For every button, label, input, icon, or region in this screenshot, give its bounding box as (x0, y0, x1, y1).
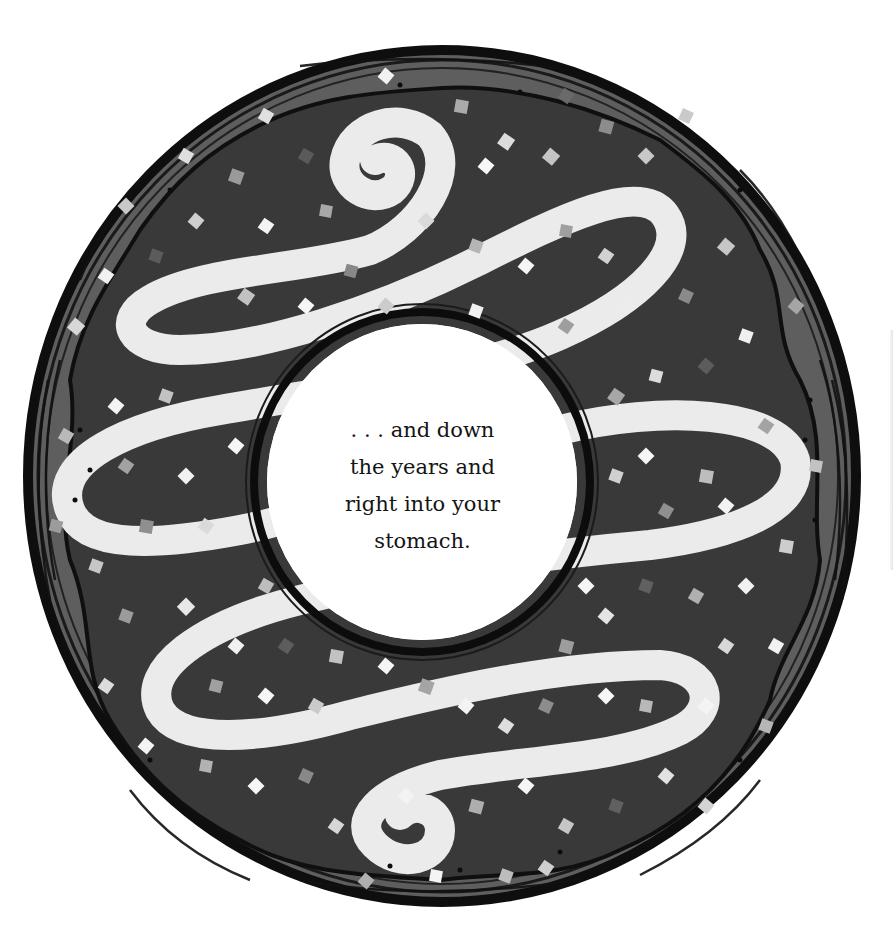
story-caption: . . . and down the years and right into … (280, 412, 565, 560)
caption-line-4: stomach. (280, 523, 565, 560)
caption-line-1: . . . and down (280, 412, 565, 449)
caption-line-2: the years and (280, 449, 565, 486)
caption-line-3: right into your (280, 486, 565, 523)
book-page: . . . and down the years and right into … (0, 0, 893, 952)
